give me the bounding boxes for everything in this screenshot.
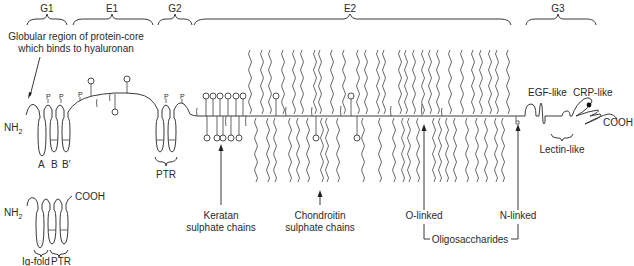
loop-b-label: B	[51, 159, 58, 170]
core-protein-backbone	[190, 114, 520, 116]
keratan-sulphate-circle	[112, 109, 118, 115]
region-label-g3: G3	[551, 3, 565, 14]
link-ptr-label: PTR	[51, 256, 71, 266]
region-braces: G1 E1 G2 E2 G3	[27, 3, 596, 25]
globular-label-line2: which binds to hyaluronan	[17, 43, 134, 54]
egf-like-module	[520, 103, 562, 124]
chondroitin-sulphate-chains-below	[255, 118, 505, 182]
region-label-e1: E1	[106, 3, 119, 14]
g2-loops	[156, 103, 190, 152]
globular-label-line1: Globular region of protein-core	[8, 31, 144, 42]
phosphate-marker: P	[59, 93, 64, 100]
ptr-brace	[155, 157, 177, 166]
g1-domain: NH2 A B B′ P P	[4, 93, 71, 170]
brace-g2	[158, 14, 192, 25]
keratan-sulphate-circle	[124, 76, 130, 82]
brace-g3	[526, 14, 596, 25]
region-label-e2: E2	[344, 3, 357, 14]
brace-e1	[73, 14, 153, 25]
phosphate-marker: P	[78, 91, 83, 98]
globular-annotation: Globular region of protein-core which bi…	[8, 31, 144, 99]
phosphate-marker: P	[46, 93, 51, 100]
region-label-g1: G1	[40, 3, 54, 14]
chondroitin-label-line1: Chondroitin	[294, 210, 345, 221]
brace-g1	[27, 14, 67, 25]
loop-b-prime-label: B′	[62, 159, 71, 170]
e2-domain	[190, 50, 520, 182]
cooh-label: COOH	[603, 117, 633, 128]
lectin-like-brace	[551, 134, 573, 141]
phosphate-marker: P	[164, 93, 169, 100]
loop-a-label: A	[38, 159, 45, 170]
chondroitin-annotation: Chondroitin sulphate chains	[285, 190, 355, 233]
lectin-like-label: Lectin-like	[539, 144, 584, 155]
o-linked-label: O-linked	[405, 210, 442, 221]
link-protein-diagram: NH2 COOH Ig-fold PTR	[4, 191, 105, 266]
globular-arrow-line	[30, 57, 40, 96]
n-linked-oligosaccharide-marker	[516, 116, 519, 124]
g1-leading-loop	[26, 104, 40, 117]
crp-like-label: CRP-like	[573, 87, 613, 98]
ig-fold-label: Ig-fold	[22, 256, 50, 266]
oligo-bracket-left	[424, 224, 430, 239]
globular-arrow-head	[28, 92, 32, 99]
n-linked-label: N-linked	[500, 210, 537, 221]
link-cooh-label: COOH	[75, 191, 105, 202]
ptr-label: PTR	[156, 169, 176, 180]
brace-e2	[194, 14, 511, 25]
oligo-bracket-right	[511, 224, 518, 239]
o-linked-stub	[110, 94, 111, 101]
phosphate-marker: P	[180, 93, 185, 100]
keratan-label-line2: sulphate chains	[186, 222, 256, 233]
loop-b-prime	[62, 110, 70, 152]
keratan-sulphate-circle	[88, 78, 94, 84]
g3-domain: EGF-like CRP-like COOH Lectin-like	[520, 87, 633, 155]
link-nh2-label: NH2	[4, 207, 22, 220]
keratan-label-line1: Keratan	[203, 210, 238, 221]
nh2-label: NH2	[4, 122, 22, 135]
o-linked-stub	[97, 99, 98, 107]
oligosaccharides-label: Oligosaccharides	[432, 234, 509, 245]
chondroitin-sulphate-chains-above	[249, 50, 510, 114]
e1-domain: P	[68, 76, 158, 115]
link-protein-loops	[27, 196, 72, 248]
oligosaccharide-annotation: O-linked N-linked Oligosaccharides	[405, 124, 536, 245]
region-label-g2: G2	[168, 3, 182, 14]
proteoglycan-structure-diagram: G1 E1 G2 E2 G3 Globular region of protei…	[0, 0, 634, 266]
egf-like-label: EGF-like	[528, 87, 567, 98]
keratan-annotation: Keratan sulphate chains	[186, 144, 256, 233]
crp-binding-dot	[587, 103, 592, 108]
chondroitin-label-line2: sulphate chains	[285, 222, 355, 233]
o-linked-oligosaccharide-stubs	[197, 104, 443, 126]
g2-domain: P P PTR	[155, 93, 190, 180]
